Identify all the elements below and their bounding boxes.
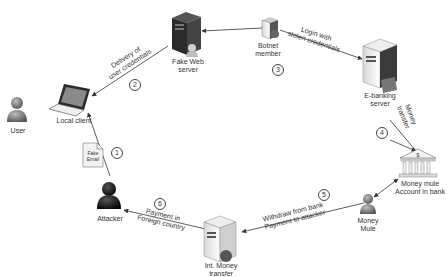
botnet-member-icon bbox=[262, 17, 279, 39]
money-mule-account-label: Money mule Account in bank bbox=[392, 180, 448, 196]
step-6-marker: 6 bbox=[154, 198, 166, 210]
int-money-transfer-icon bbox=[204, 216, 236, 262]
step-1-marker: 1 bbox=[111, 147, 123, 159]
user-icon bbox=[7, 97, 27, 122]
attacker-label: Attacker bbox=[92, 215, 128, 223]
int-money-transfer-label: Int. Money transfer bbox=[198, 262, 244, 277]
laptop-icon bbox=[49, 84, 90, 116]
local-client-label: Local client bbox=[52, 117, 96, 125]
ebanking-server-icon bbox=[363, 39, 397, 93]
step-2-marker: 2 bbox=[129, 79, 141, 91]
fake-web-server-icon bbox=[172, 12, 201, 57]
edge-botnet-to-fakeweb bbox=[202, 28, 262, 31]
botnet-member-label: Botnet member bbox=[252, 42, 284, 58]
step-3-marker: 3 bbox=[272, 64, 284, 76]
svg-text:$: $ bbox=[417, 152, 420, 158]
fake-email-label: Fake Email bbox=[83, 150, 103, 162]
step-4-marker: 4 bbox=[376, 127, 388, 139]
step-5-marker: 5 bbox=[318, 189, 330, 201]
bank-icon: $ bbox=[399, 149, 437, 177]
money-mule-icon bbox=[360, 194, 376, 214]
fake-web-server-label: Fake Web server bbox=[168, 58, 208, 74]
attacker-icon bbox=[97, 182, 121, 209]
money-mule-label: Money Mule bbox=[352, 217, 384, 233]
user-label: User bbox=[4, 127, 32, 135]
